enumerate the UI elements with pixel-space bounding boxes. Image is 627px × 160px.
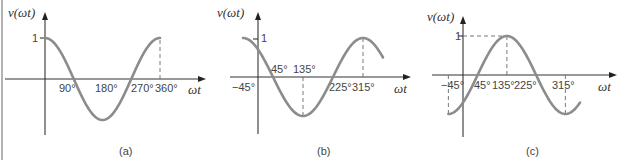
panel-a: v(ωt) 1 ωt 90° 180° 270° 360° (a): [5, 5, 206, 157]
x-tick-label: 90°: [59, 82, 76, 94]
y-tick-label-1: 1: [32, 32, 38, 44]
x-tick-label: 270°: [131, 82, 154, 94]
x-tick-label: 135°: [293, 63, 316, 75]
x-tick-label: 360°: [155, 82, 178, 94]
y-axis-arrow-icon: [460, 16, 466, 24]
x-tick-label: 315°: [552, 79, 575, 91]
x-tick-label: 225°: [329, 81, 352, 93]
x-tick-label: −45°: [441, 79, 464, 91]
x-tick-label: 45°: [271, 63, 288, 75]
y-axis-arrow-icon: [42, 12, 48, 20]
x-tick-label: 180°: [95, 82, 118, 94]
y-tick-label-1: 1: [261, 32, 267, 44]
x-tick-label: 45°: [474, 79, 491, 91]
sinusoid-phase-figure: v(ωt) 1 ωt 90° 180° 270° 360° (a) v(ωt) …: [0, 0, 627, 160]
x-tick-label: 315°: [352, 81, 375, 93]
panel-caption: (c): [526, 145, 539, 157]
y-axis-title: v(ωt): [217, 5, 244, 20]
panel-b: v(ωt) 1 ωt −45° 45° 135° 225° 315° (b): [217, 5, 411, 157]
x-axis-title: ωt: [598, 79, 611, 94]
panel-c: v(ωt) 1 ωt −45° 45° 135° 225° 315° (c): [427, 9, 617, 157]
x-axis-title: ωt: [188, 82, 201, 97]
y-axis-title: v(ωt): [8, 5, 35, 20]
x-tick-label: 225°: [514, 79, 537, 91]
y-axis-arrow-icon: [255, 12, 261, 20]
x-tick-label: −45°: [232, 81, 255, 93]
x-axis-title: ωt: [394, 81, 407, 96]
x-tick-label: 135°: [492, 79, 515, 91]
panel-caption: (b): [317, 145, 330, 157]
y-axis-title: v(ωt): [427, 9, 454, 24]
panel-caption: (a): [119, 145, 132, 157]
y-tick-label-1: 1: [455, 30, 461, 42]
x-axis-arrow-icon: [403, 74, 411, 80]
x-axis-arrow-icon: [609, 72, 617, 78]
